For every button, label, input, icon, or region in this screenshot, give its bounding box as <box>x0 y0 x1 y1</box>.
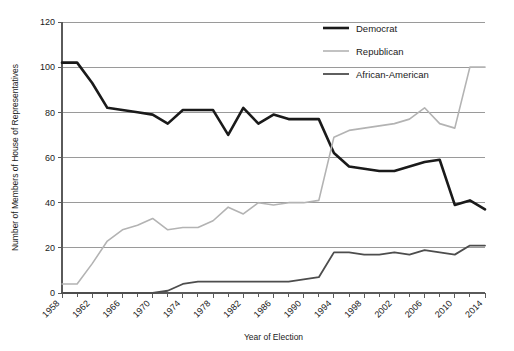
series-line-african-american <box>62 246 485 293</box>
x-tick-label-1990: 1990 <box>282 298 303 319</box>
legend-label-democrat: Democrat <box>356 23 398 34</box>
legend-label-african-american: African-American <box>356 69 429 80</box>
y-tick-label-20: 20 <box>45 243 55 253</box>
x-tick-label-2010: 2010 <box>433 298 454 319</box>
x-tick-label-2006: 2006 <box>403 298 424 319</box>
y-tick-label-100: 100 <box>40 62 55 72</box>
series-line-democrat <box>62 63 485 210</box>
x-axis-title: Year of Election <box>244 332 303 342</box>
y-axis-title: Number of Members of House of Representa… <box>10 64 20 251</box>
y-tick-label-40: 40 <box>45 198 55 208</box>
y-tick-label-120: 120 <box>40 17 55 27</box>
x-tick-label-1982: 1982 <box>221 298 242 319</box>
legend-label-republican: Republican <box>356 46 404 57</box>
x-tick-label-1994: 1994 <box>312 298 333 319</box>
x-tick-label-1966: 1966 <box>101 298 122 319</box>
x-tick-label-1998: 1998 <box>342 298 363 319</box>
y-tick-label-80: 80 <box>45 108 55 118</box>
x-tick-label-1986: 1986 <box>252 298 273 319</box>
line-chart: 0204060801001201958196219661970197419781… <box>0 0 514 351</box>
x-tick-label-1978: 1978 <box>191 298 212 319</box>
x-tick-label-1970: 1970 <box>131 298 152 319</box>
x-tick-label-1962: 1962 <box>70 298 91 319</box>
y-tick-label-60: 60 <box>45 153 55 163</box>
y-tick-label-0: 0 <box>50 288 55 298</box>
x-tick-label-2014: 2014 <box>463 298 484 319</box>
chart-container: 0204060801001201958196219661970197419781… <box>0 0 514 351</box>
x-tick-label-1974: 1974 <box>161 298 182 319</box>
x-tick-label-1958: 1958 <box>40 298 61 319</box>
x-tick-label-2002: 2002 <box>373 298 394 319</box>
